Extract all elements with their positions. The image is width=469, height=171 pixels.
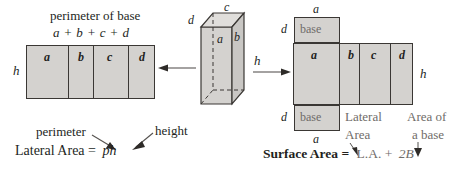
prism-surface-area-diagram: perimeter of base a + b + c + d a b c d … — [0, 0, 469, 171]
right-net-face-label-d: d — [399, 49, 405, 61]
lateral-area-equation-label: Lateral Area = — [15, 143, 96, 158]
right-net-bottom-base-label-d: d — [281, 111, 287, 123]
surface-area-equation-2b: 2B — [399, 146, 414, 161]
lateral-area-callout-line2: Area — [345, 128, 370, 141]
prism-left-edge-label: d — [188, 14, 194, 26]
surface-area-equation: Surface Area = L.A. + 2B — [263, 147, 414, 161]
lateral-area-equation: Lateral Area = ph — [15, 144, 116, 158]
prism-top-edge-label: c — [224, 1, 229, 13]
area-of-base-callout-arrowhead — [414, 148, 422, 157]
right-net-face-label-a: a — [311, 49, 317, 61]
prism-right-edge-label: b — [234, 31, 240, 43]
right-net-top-base-label-a: a — [313, 3, 319, 15]
right-net-divider-3 — [390, 44, 391, 104]
prism-inner-edge-label: a — [217, 33, 223, 45]
right-net-face-label-b: b — [348, 49, 354, 61]
right-net-face-label-c: c — [371, 49, 376, 61]
perimeter-callout-label: perimeter — [36, 125, 86, 138]
right-arrow-head — [281, 69, 291, 76]
right-net-bottom-base-text: base — [300, 111, 321, 123]
right-net-top-base-label-d: d — [281, 23, 287, 35]
right-net-height-label: h — [420, 67, 427, 80]
right-net-bottom-base-label-a: a — [313, 133, 319, 145]
lateral-area-callout-line1: Lateral — [345, 110, 382, 123]
left-arrow-head — [158, 65, 168, 72]
prism-height-label: h — [254, 54, 261, 67]
right-net-divider-1 — [339, 44, 340, 104]
surface-area-equation-la: L.A. + — [357, 146, 393, 161]
height-callout-label: height — [155, 124, 188, 137]
area-of-base-callout-line1: Area of — [407, 110, 446, 123]
right-net-top-base-text: base — [300, 23, 321, 35]
surface-area-equation-label: Surface Area = — [263, 146, 349, 161]
area-of-base-callout-line2: a base — [412, 128, 444, 141]
height-callout-arrowhead — [132, 141, 145, 150]
lateral-area-equation-value: ph — [102, 143, 116, 158]
right-net-divider-2 — [359, 44, 360, 104]
